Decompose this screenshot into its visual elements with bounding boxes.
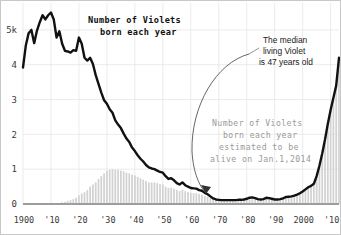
estimated-alive-bar <box>338 58 340 204</box>
estimated-alive-bar <box>179 191 181 204</box>
estimated-alive-bar <box>145 181 147 204</box>
estimated-alive-bar <box>98 179 100 204</box>
estimated-alive-bar <box>142 180 144 204</box>
estimated-alive-bar <box>176 190 178 204</box>
estimated-alive-bar <box>293 196 295 204</box>
violets-name-chart: 5k43210 1900'10'20'30'40'50'60'70'80'902… <box>0 0 341 235</box>
x-axis-tick-label: '10 <box>324 215 339 225</box>
estimated-alive-bar <box>140 178 142 204</box>
median-annotation-line-2: living Violet <box>263 46 306 56</box>
chart-title-line1: Number of Violets <box>88 15 181 25</box>
estimated-alive-bar <box>126 173 128 204</box>
y-axis-tick-label: 2 <box>12 130 17 140</box>
y-axis-tick-label: 1 <box>12 164 17 174</box>
estimated-alive-bar <box>86 190 88 204</box>
x-axis-tick-label: '80 <box>240 215 255 225</box>
estimated-alive-bar <box>100 176 102 204</box>
x-axis-tick-label: '10 <box>44 215 59 225</box>
x-axis-tick-label: '50 <box>156 215 171 225</box>
estimated-alive-bar <box>128 173 130 204</box>
estimated-alive-bar <box>168 188 170 204</box>
estimated-alive-bar <box>335 86 337 204</box>
median-annotation-line-3: is 47 years old <box>259 57 313 67</box>
estimated-alive-bar <box>84 192 86 204</box>
estimated-alive-bar <box>182 190 184 204</box>
estimated-alive-bar <box>120 171 122 204</box>
median-annotation-line-1: The median <box>263 35 308 45</box>
estimated-alive-bar <box>137 177 139 204</box>
estimated-alive-bar <box>103 173 105 204</box>
estimated-alive-bar <box>184 191 186 204</box>
estimated-alive-bar <box>95 182 97 204</box>
x-axis-tick-label: '20 <box>72 215 87 225</box>
estimated-alive-bar <box>131 175 133 204</box>
x-axis-tick-label: 2000 <box>293 215 313 225</box>
estimated-alive-bar <box>162 185 164 205</box>
estimated-alive-bar <box>112 169 114 204</box>
estimated-alive-bar <box>198 194 200 204</box>
estimated-alive-bar <box>204 196 206 204</box>
estimated-alive-bar <box>81 194 83 204</box>
estimated-alive-bar <box>307 188 309 204</box>
y-axis-tick-label: 0 <box>12 199 17 209</box>
alive-annotation-line-2: born each year <box>223 130 298 140</box>
estimated-alive-bar <box>310 186 312 204</box>
estimated-alive-bar <box>330 110 332 204</box>
estimated-alive-bar <box>324 140 326 204</box>
estimated-alive-bar <box>156 183 158 204</box>
estimated-alive-bar <box>313 184 315 204</box>
estimated-alive-bar <box>207 197 209 204</box>
estimated-alive-bar <box>123 171 125 204</box>
estimated-alive-bar <box>201 195 203 204</box>
y-axis-tick-label: 4 <box>12 60 17 70</box>
x-axis-tick-label: '60 <box>184 215 199 225</box>
alive-annotation-line-4: alive on Jan.1,2014 <box>210 154 311 164</box>
estimated-alive-bar <box>92 185 94 205</box>
estimated-alive-bar <box>159 184 161 204</box>
estimated-alive-bar <box>327 124 329 204</box>
estimated-alive-bar <box>106 171 108 204</box>
estimated-alive-bar <box>302 192 304 204</box>
estimated-alive-bar <box>299 194 301 204</box>
estimated-alive-bar <box>288 197 290 204</box>
estimated-alive-bar <box>148 182 150 204</box>
x-axis-tick-label: 1900 <box>14 215 34 225</box>
chart-title-line2: born each year <box>100 27 177 37</box>
estimated-alive-bar <box>333 98 335 204</box>
estimated-alive-bar <box>193 193 195 204</box>
estimated-alive-bar <box>78 195 80 204</box>
estimated-alive-bar <box>291 197 293 204</box>
x-axis-tick-label: '90 <box>268 215 283 225</box>
y-axis-tick-label: 5k <box>6 25 17 35</box>
estimated-alive-bar <box>134 175 136 204</box>
chart-canvas: 5k43210 1900'10'20'30'40'50'60'70'80'902… <box>1 1 341 235</box>
estimated-alive-bar <box>165 187 167 204</box>
estimated-alive-bar <box>151 182 153 204</box>
estimated-alive-bar <box>190 193 192 204</box>
alive-annotation-line-3: estimated to be <box>219 142 299 152</box>
estimated-alive-bar <box>173 189 175 204</box>
estimated-alive-bar <box>89 187 91 204</box>
x-axis-tick-label: '70 <box>212 215 227 225</box>
estimated-alive-bar <box>196 193 198 204</box>
estimated-alive-bar <box>117 170 119 204</box>
estimated-alive-bar <box>109 170 111 204</box>
estimated-alive-bar <box>296 195 298 204</box>
estimated-alive-bar <box>305 190 307 204</box>
x-axis-tick-label: '40 <box>128 215 143 225</box>
y-axis-tick-label: 3 <box>12 95 17 105</box>
estimated-alive-bar <box>187 192 189 204</box>
alive-annotation-line-1: Number of Violets <box>212 118 303 128</box>
estimated-alive-bar <box>114 170 116 204</box>
estimated-alive-bar <box>154 182 156 204</box>
x-axis-tick-label: '30 <box>100 215 115 225</box>
estimated-alive-bar <box>170 188 172 204</box>
